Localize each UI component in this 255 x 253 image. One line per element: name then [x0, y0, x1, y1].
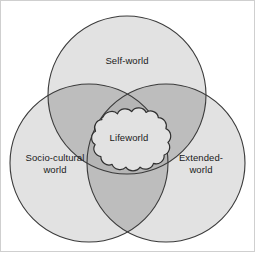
venn-diagram-canvas: [0, 0, 255, 253]
cloud-shape: [92, 108, 171, 171]
venn-diagram: Self-world Socio-cultural world Extended…: [0, 0, 255, 253]
